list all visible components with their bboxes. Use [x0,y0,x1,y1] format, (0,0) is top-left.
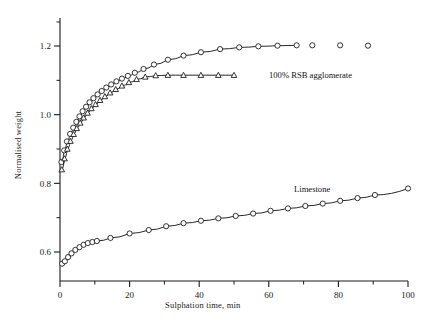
data-point-circle [84,104,89,109]
data-point-circle [320,201,325,206]
data-point-circle [365,43,370,48]
data-point-circle [127,231,132,236]
annotation-limestone: Limestone [294,184,330,194]
data-point-circle [125,73,130,78]
x-tick-label: 100 [401,290,415,300]
y-axis-title: Normalised weight [13,97,23,193]
data-point-circle [164,224,169,229]
data-point-circle [338,198,343,203]
x-tick-label: 60 [264,290,274,300]
data-point-circle [114,79,119,84]
y-tick-label: 0.8 [40,179,52,189]
x-tick-label: 40 [195,290,205,300]
data-point-circle [104,85,109,90]
data-point-circle [181,221,186,226]
data-point-triangle [62,156,68,161]
data-point-circle [285,206,290,211]
data-point-circle [217,46,222,51]
data-point-circle [303,203,308,208]
x-tick-label: 20 [125,290,135,300]
data-point-circle [87,100,92,105]
y-tick-label: 1.0 [40,110,52,120]
data-point-circle [294,43,299,48]
data-point-circle [355,196,360,201]
data-point-circle [141,66,146,71]
x-tick-label: 0 [58,290,63,300]
data-point-circle [146,227,151,232]
data-point-circle [216,216,221,221]
data-point-circle [151,62,156,67]
x-tick-label: 80 [334,290,344,300]
data-point-circle [94,238,99,243]
data-point-circle [268,208,273,213]
data-point-circle [251,211,256,216]
chart-plot-area: 0.60.81.01.2020406080100 [0,0,428,321]
data-point-circle [310,43,315,48]
data-point-circle [77,114,82,119]
y-tick-label: 1.2 [40,41,51,51]
chart-figure: 0.60.81.01.2020406080100 Normalised weig… [0,0,428,321]
data-point-circle [256,44,261,49]
data-point-circle [165,57,170,62]
y-tick-label: 0.6 [40,247,52,257]
data-point-circle [237,45,242,50]
data-point-circle [338,43,343,48]
data-point-circle [405,186,410,191]
data-point-circle [108,235,113,240]
series-line-1 [62,75,234,169]
data-point-circle [372,192,377,197]
data-point-circle [91,96,96,101]
data-point-circle [181,53,186,58]
data-point-circle [99,88,104,93]
data-point-circle [109,82,114,87]
annotation-rsb-agglomerate: 100% RSB agglomerate [269,70,352,80]
data-point-circle [119,76,124,81]
data-point-circle [198,50,203,55]
data-point-circle [132,70,137,75]
data-point-circle [198,218,203,223]
data-point-circle [275,43,280,48]
x-axis-title: Sulphation time, min [165,300,241,310]
data-point-circle [233,213,238,218]
data-point-circle [80,109,85,114]
